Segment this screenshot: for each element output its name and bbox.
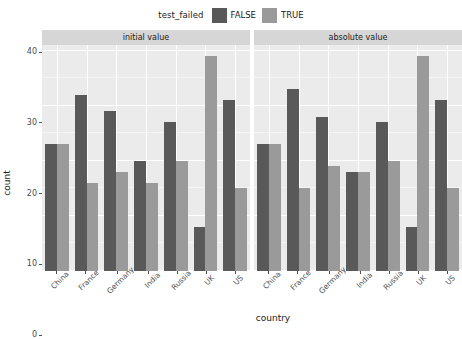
legend-swatch-true [262, 8, 277, 23]
bar-group [72, 45, 102, 271]
x-axis-tick-mark [268, 271, 269, 274]
bar[interactable] [223, 100, 235, 271]
bar-group [284, 45, 314, 271]
y-axis-tick-label: 20 [27, 190, 37, 198]
y-axis-tick-label: 40 [27, 48, 37, 56]
y-axis-tick: 10 [27, 260, 42, 268]
bar[interactable] [146, 183, 158, 271]
bar[interactable] [45, 144, 57, 271]
y-axis-tick-mark [39, 335, 42, 336]
bar[interactable] [205, 56, 217, 271]
x-axis-tick: Russia [163, 271, 192, 286]
facet-strip: initial value [42, 30, 250, 45]
legend-swatch-false-fill [212, 8, 227, 23]
bar-group [254, 45, 284, 271]
x-axis-tick: US [433, 271, 462, 286]
bar-group [313, 45, 343, 271]
x-axis-tick-mark [329, 271, 330, 274]
bar-layer [254, 45, 462, 271]
bar[interactable] [75, 95, 87, 271]
bar[interactable] [116, 172, 128, 271]
legend-item-false[interactable]: FALSE [212, 8, 256, 23]
x-axis-tick-mark [56, 271, 57, 274]
panel-area [254, 45, 462, 271]
facet-strip: absolute value [254, 30, 462, 45]
x-axis-row: ChinaFranceGermanyIndiaRussiaUKUSChinaFr… [42, 271, 462, 313]
bar-layer [42, 45, 250, 271]
bar[interactable] [194, 227, 206, 271]
y-axis-tick: 0 [32, 331, 42, 339]
x-axis-tick: India [346, 271, 375, 286]
bar[interactable] [299, 188, 311, 271]
y-axis-tick: 20 [27, 190, 42, 198]
x-axis-tick-mark [85, 271, 86, 274]
x-axis-tick: Germany [100, 271, 134, 286]
x-axis-tick-mark [177, 271, 178, 274]
bar[interactable] [269, 144, 281, 271]
bar-group [42, 45, 72, 271]
x-axis-tick-label: China [261, 269, 283, 291]
legend-item-true[interactable]: TRUE [262, 8, 304, 23]
bar[interactable] [57, 144, 69, 271]
x-axis-tick: China [254, 271, 283, 286]
bar[interactable] [406, 227, 418, 271]
bar[interactable] [388, 161, 400, 271]
facet-strip-label: absolute value [329, 33, 388, 42]
bar[interactable] [257, 144, 269, 271]
x-axis-tick-label: US [232, 273, 246, 287]
x-axis-tick-mark [297, 271, 298, 274]
bar-group [101, 45, 131, 271]
bar[interactable] [235, 188, 247, 271]
x-axis-tick: France [71, 271, 100, 286]
x-axis-tick-mark [389, 271, 390, 274]
x-axis-tick-mark [148, 271, 149, 274]
bar[interactable] [87, 183, 99, 271]
facet-panel: absolute value [254, 30, 462, 271]
legend-label-false: FALSE [231, 10, 256, 20]
bar[interactable] [316, 117, 328, 271]
bar[interactable] [447, 188, 459, 271]
bar[interactable] [134, 161, 146, 271]
x-axis: ChinaFranceGermanyIndiaRussiaUKUS [254, 271, 462, 313]
bar[interactable] [328, 166, 340, 271]
bar[interactable] [376, 122, 388, 271]
y-axis-title: count [2, 170, 12, 195]
x-axis-tick: UK [404, 271, 433, 286]
bar-group [191, 45, 221, 271]
bar-group [343, 45, 373, 271]
facet-panels: initial valueabsolute value ChinaFranceG… [42, 30, 462, 335]
x-axis-tick-label: China [49, 269, 71, 291]
bar[interactable] [176, 161, 188, 271]
bar[interactable] [346, 172, 358, 271]
x-axis-tick-mark [447, 271, 448, 274]
y-axis-tick-label: 0 [32, 331, 37, 339]
bar-group [373, 45, 403, 271]
x-axis-tick-mark [206, 271, 207, 274]
x-axis-ticks: ChinaFranceGermanyIndiaRussiaUKUS [254, 271, 462, 286]
x-axis-tick-label: UK [203, 273, 217, 287]
x-axis-tick: India [134, 271, 163, 286]
facet-panel: initial value [42, 30, 250, 271]
x-axis-tick: China [42, 271, 71, 286]
x-axis-tick-mark [360, 271, 361, 274]
facet-strip-label: initial value [123, 33, 169, 42]
x-axis: ChinaFranceGermanyIndiaRussiaUKUS [42, 271, 250, 313]
x-axis-tick-label: France [77, 268, 101, 292]
bar[interactable] [287, 89, 299, 271]
y-axis: 010203040 [14, 30, 42, 335]
bar[interactable] [164, 122, 176, 271]
bar[interactable] [104, 111, 116, 271]
bar[interactable] [417, 56, 429, 271]
plot-body: count 010203040 initial valueabsolute va… [0, 30, 462, 335]
bar[interactable] [358, 172, 370, 271]
bar-group [161, 45, 191, 271]
facet-panel-row: initial valueabsolute value [42, 30, 462, 271]
y-axis-tick-label: 30 [27, 119, 37, 127]
x-axis-tick-label: UK [415, 273, 429, 287]
x-axis-tick-label: France [289, 268, 313, 292]
x-axis-tick: Germany [312, 271, 346, 286]
x-axis-tick: UK [192, 271, 221, 286]
bar-group [131, 45, 161, 271]
bar[interactable] [435, 100, 447, 271]
